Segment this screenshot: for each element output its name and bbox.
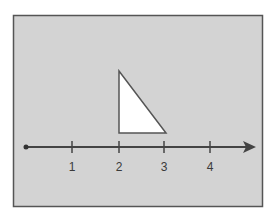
tick-label-4: 4 (207, 160, 214, 174)
diagram-figure: 1 2 3 4 (0, 0, 271, 217)
tick-label-3: 3 (161, 160, 168, 174)
tick-label-2: 2 (116, 160, 123, 174)
tick-label-1: 1 (69, 160, 76, 174)
start-dot-icon (24, 145, 29, 150)
